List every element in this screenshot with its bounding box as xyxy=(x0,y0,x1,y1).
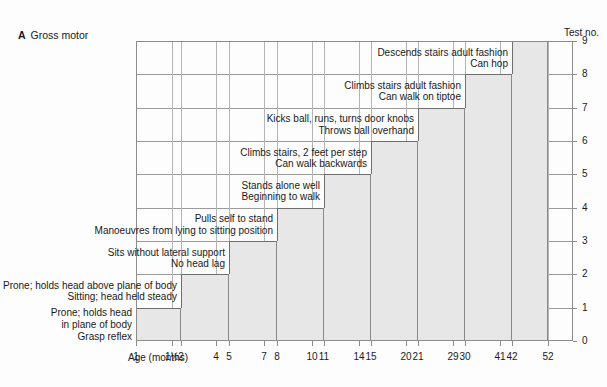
milestone-line: Prone; holds head above plane of body xyxy=(3,280,177,292)
step-block-test-4 xyxy=(277,208,324,341)
y-tick-8: 8 xyxy=(582,69,588,79)
milestone-line: Can walk backwards xyxy=(240,158,367,170)
y-tick-mark-6 xyxy=(573,141,577,142)
panel-letter: A xyxy=(18,29,26,41)
step-riser-test-5 xyxy=(324,174,325,207)
panel-title: AGross motor xyxy=(18,29,88,41)
y-tick-9: 9 xyxy=(582,36,588,46)
y-tick-mark-2 xyxy=(573,274,577,275)
milestone-caption-test-4: Pulls self to standManoeuvres from lying… xyxy=(95,213,273,236)
milestone-line: Pulls self to stand xyxy=(95,213,273,225)
step-riser-test-2 xyxy=(181,274,182,307)
step-riser-test-4 xyxy=(277,208,278,241)
y-tick-mark-9 xyxy=(573,41,577,42)
step-block-test-1 xyxy=(136,308,181,341)
step-riser-test-6 xyxy=(371,141,372,174)
x-tick-29: 29 xyxy=(447,352,458,362)
y-tick-mark-4 xyxy=(573,208,577,209)
y-tick-mark-5 xyxy=(573,174,577,175)
x-tick-mark-42 xyxy=(512,341,513,346)
y-tick-mark-7 xyxy=(573,108,577,109)
x-tick-mark-5 xyxy=(229,341,230,346)
milestone-line: Kicks ball, runs, turns door knobs xyxy=(267,113,414,125)
milestone-line: Sitting; head held steady xyxy=(3,291,177,303)
milestone-line: Can walk on tiptoe xyxy=(344,91,461,103)
x-tick-mark-2 xyxy=(181,341,182,346)
milestone-line: Prone; holds head xyxy=(51,307,132,319)
y-tick-0: 0 xyxy=(582,336,588,346)
y-tick-mark-1 xyxy=(573,308,577,309)
step-block-test-7 xyxy=(418,108,465,341)
y-tick-2: 2 xyxy=(582,269,588,279)
milestone-caption-test-3: Sits without lateral supportNo head lag xyxy=(108,247,225,270)
step-block-test-3 xyxy=(229,241,277,341)
x-tick-mark-41 xyxy=(500,341,501,346)
y-tick-4: 4 xyxy=(582,203,588,213)
y-tick-3: 3 xyxy=(582,236,588,246)
x-tick-mark-52 xyxy=(548,341,549,346)
x-tick-mark-21 xyxy=(418,341,419,346)
milestone-caption-test-1: Prone; holds headin plane of bodyGrasp r… xyxy=(51,307,132,342)
y-tick-5: 5 xyxy=(582,169,588,179)
x-tick-mark-4 xyxy=(216,341,217,346)
step-riser-test-1 xyxy=(136,308,137,341)
y-tick-1: 1 xyxy=(582,303,588,313)
x-tick-15: 15 xyxy=(365,352,376,362)
step-riser-test-9 xyxy=(512,41,513,74)
milestone-line: Beginning to walk xyxy=(242,191,320,203)
milestone-line: Throws ball overhand xyxy=(267,125,414,137)
x-tick-mark-7 xyxy=(264,341,265,346)
step-block-test-6 xyxy=(371,141,418,341)
x-tick-2: 2 xyxy=(178,352,184,362)
x-tick-52: 52 xyxy=(542,352,553,362)
step-riser-test-3 xyxy=(229,241,230,274)
milestone-caption-test-2: Prone; holds head above plane of bodySit… xyxy=(3,280,177,303)
x-tick-mark-14 xyxy=(359,341,360,346)
x-tick-41: 41 xyxy=(494,352,505,362)
milestone-caption-test-9: Descends stairs adult fashionCan hop xyxy=(377,47,508,70)
x-tick-mark-29 xyxy=(453,341,454,346)
x-tick-1½: 1½ xyxy=(165,352,179,362)
x-tick-mark-1½ xyxy=(172,341,173,346)
step-block-test-9 xyxy=(512,41,548,341)
x-tick-10: 10 xyxy=(306,352,317,362)
y-tick-6: 6 xyxy=(582,136,588,146)
milestone-caption-test-6: Climbs stairs, 2 feet per stepCan walk b… xyxy=(240,147,367,170)
milestone-line: Climbs stairs adult fashion xyxy=(344,80,461,92)
x-tick-mark-20 xyxy=(406,341,407,346)
y-tick-7: 7 xyxy=(582,103,588,113)
milestone-line: Sits without lateral support xyxy=(108,247,225,259)
milestone-line: Stands alone well xyxy=(242,180,320,192)
step-block-test-5 xyxy=(324,174,371,341)
x-tick-30: 30 xyxy=(459,352,470,362)
x-tick-mark-30 xyxy=(465,341,466,346)
gross-motor-milestone-chart: AGross motor Test no. Age (months) 01234… xyxy=(0,0,607,387)
x-tick-5: 5 xyxy=(226,352,232,362)
x-tick-8: 8 xyxy=(274,352,280,362)
step-riser-test-7 xyxy=(418,108,419,141)
milestone-line: in plane of body xyxy=(51,319,132,331)
y-tick-mark-0 xyxy=(573,341,577,342)
x-tick-mark-15 xyxy=(371,341,372,346)
milestone-caption-test-7: Kicks ball, runs, turns door knobsThrows… xyxy=(267,113,414,136)
milestone-caption-test-5: Stands alone wellBeginning to walk xyxy=(242,180,320,203)
milestone-line: No head lag xyxy=(108,258,225,270)
milestone-line: Can hop xyxy=(377,58,508,70)
x-tick-1: 1 xyxy=(133,352,139,362)
milestone-line: Climbs stairs, 2 feet per step xyxy=(240,147,367,159)
x-tick-11: 11 xyxy=(319,352,329,362)
step-riser-test-8 xyxy=(465,74,466,107)
y-tick-mark-8 xyxy=(573,74,577,75)
x-tick-4: 4 xyxy=(213,352,219,362)
step-block-test-8 xyxy=(465,74,512,341)
milestone-line: Grasp reflex xyxy=(51,331,132,343)
x-tick-mark-11 xyxy=(324,341,325,346)
x-tick-21: 21 xyxy=(412,352,423,362)
x-tick-mark-10 xyxy=(312,341,313,346)
milestone-line: Manoeuvres from lying to sitting positio… xyxy=(95,225,273,237)
x-tick-42: 42 xyxy=(506,352,517,362)
gridline-age-52 xyxy=(548,41,549,341)
x-tick-mark-1 xyxy=(136,341,137,346)
y-tick-mark-3 xyxy=(573,241,577,242)
x-tick-20: 20 xyxy=(400,352,411,362)
